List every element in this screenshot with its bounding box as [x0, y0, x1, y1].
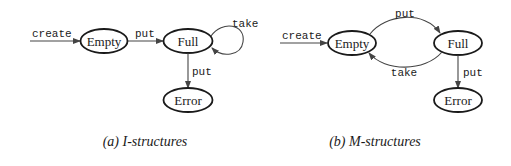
state-full-m: Full [434, 31, 482, 55]
edge-put-empty-to-full-m: put [370, 8, 440, 34]
state-label-empty: Empty [335, 36, 370, 51]
state-label-error: Error [174, 93, 202, 108]
caption-i-structures: (a) I-structures [103, 134, 188, 150]
state-diagram-figure: create Empty put Full take put [0, 0, 511, 166]
panel-m-structures: create Empty put Full take put [280, 8, 483, 150]
edge-take-self-loop: take [211, 18, 258, 54]
state-error-m: Error [434, 88, 482, 112]
state-label-full: Full [178, 34, 199, 49]
state-error: Error [164, 88, 213, 112]
edge-label-create: create [282, 30, 322, 42]
edge-label-put: put [135, 28, 155, 40]
state-empty: Empty [81, 29, 128, 53]
edge-create-m: create [280, 30, 327, 43]
edge-take-full-to-empty-m: take [369, 52, 442, 79]
take-arc-arrow-icon [369, 52, 442, 67]
edge-put-full-to-error: put [188, 53, 212, 88]
edge-label-take: take [391, 67, 417, 79]
state-label-empty: Empty [87, 34, 122, 49]
state-empty-m: Empty [328, 31, 376, 55]
edge-label-put: put [395, 8, 415, 20]
caption-m-structures: (b) M-structures [329, 134, 421, 150]
edge-label-take: take [232, 18, 258, 30]
state-full: Full [164, 29, 213, 53]
take-loop-arrow-icon [211, 26, 243, 54]
edge-put-full-to-error-m: put [458, 55, 483, 88]
edge-label-put-error: put [192, 66, 212, 78]
edge-put-empty-to-full: put [128, 28, 163, 41]
state-label-full: Full [448, 36, 469, 51]
state-label-error: Error [444, 93, 472, 108]
edge-label-put-error: put [463, 67, 483, 79]
edge-create: create [30, 28, 80, 41]
edge-label-create: create [32, 28, 72, 40]
panel-i-structures: create Empty put Full take put [30, 18, 258, 150]
